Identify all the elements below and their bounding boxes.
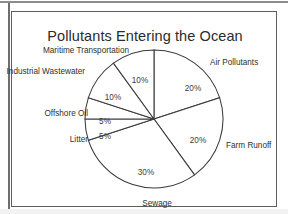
scanned-page: Pollutants Entering the Ocean 20%20%30%5… [0,0,288,214]
pie-percent-label: 20% [190,136,206,145]
pie-category-label-industrial-wastewater: Industrial Wastewater [7,67,86,76]
pie-category-label-farm-runoff: Farm Runoff [226,141,272,150]
pie-percent-label: 20% [185,84,201,93]
pie-percent-label: 10% [132,76,148,85]
pie-percent-label: 30% [138,168,154,177]
pie-chart: 20%20%30%5%5%10%10% Air PollutantsFarm R… [12,12,278,208]
pie-percent-label: 10% [105,93,121,102]
pie-category-label-sewage: Sewage [142,199,172,208]
pie-category-label-maritime-transportation: Maritime Transportation [43,46,129,55]
pie-category-label-offshore-oil: Offshore Oil [44,109,88,118]
pie-percent-label: 5% [99,132,111,141]
chart-frame: Pollutants Entering the Ocean 20%20%30%5… [11,11,277,207]
pie-percent-label: 5% [99,117,111,126]
page-left-edge-bar [8,3,10,214]
pie-category-label-litter: Litter [70,135,88,144]
page-bottom-wash [0,209,288,214]
page-top-rule [0,1,288,3]
pie-category-label-air-pollutants: Air Pollutants [210,58,258,67]
